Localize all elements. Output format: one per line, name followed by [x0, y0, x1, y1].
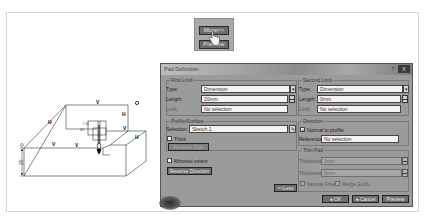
- first-limit-label: First Limit: [170, 77, 194, 83]
- svg-text:45: 45: [80, 128, 84, 132]
- svg-text:V: V: [96, 99, 100, 105]
- pad-definition-dialog: Pad Definition ? X First Limit Type: Dim…: [160, 63, 413, 207]
- neutral-fiber-label: Neutral Fiber: [307, 181, 336, 187]
- second-type-select[interactable]: Dimension: [317, 85, 403, 93]
- first-limit-input[interactable]: No selection: [201, 105, 288, 113]
- thin-pad-label: Thin Pad: [302, 147, 324, 153]
- reverse-side-button[interactable]: Reverse Side: [168, 143, 209, 151]
- second-limit-input[interactable]: No selection: [317, 105, 401, 113]
- thickness1-input[interactable]: 1mm: [321, 157, 402, 165]
- svg-text:H: H: [135, 134, 139, 140]
- second-type-dropdown-arrow[interactable]: ▾: [403, 85, 409, 93]
- ok-button[interactable]: ● OK: [322, 195, 349, 203]
- hand-pointer-icon: [209, 30, 220, 46]
- svg-text:L30: L30: [83, 122, 89, 126]
- profile-surface-label: Profile/Surface: [170, 118, 205, 124]
- merge-ends-label: Merge Ends: [342, 181, 369, 187]
- thickness1-spinner[interactable]: [402, 157, 408, 165]
- second-limit-label: Second Limit: [302, 77, 333, 83]
- dialog-title: Pad Definition: [164, 66, 198, 72]
- thickness2-spinner[interactable]: [402, 169, 408, 177]
- less-button[interactable]: <<Less: [274, 184, 297, 192]
- close-button[interactable]: X: [398, 65, 410, 73]
- svg-text:V: V: [75, 142, 79, 148]
- reverse-direction-button[interactable]: Reverse Direction: [167, 167, 212, 175]
- thick-label: Thick: [174, 136, 186, 142]
- first-length-input[interactable]: 20mm: [201, 95, 288, 103]
- sketch-button[interactable]: ✎: [289, 125, 296, 133]
- first-length-spinner[interactable]: [289, 95, 295, 103]
- thickness2-input[interactable]: 0mm: [321, 169, 402, 177]
- second-length-label: Length:: [299, 96, 316, 102]
- direction-label: Direction: [302, 118, 324, 124]
- first-limit-field-label: Limit:: [166, 106, 178, 112]
- help-button[interactable]: ?: [388, 65, 398, 73]
- reference-label: Reference:: [299, 136, 323, 142]
- mirrored-extent-label: Mirrored extent: [174, 158, 208, 164]
- second-length-spinner[interactable]: [402, 95, 408, 103]
- cancel-label: Cancel: [360, 196, 376, 202]
- svg-text:V: V: [52, 141, 56, 147]
- neutral-fiber-checkbox[interactable]: [300, 181, 305, 186]
- svg-text:V: V: [123, 125, 127, 131]
- more-button-callout: More>> Preview: [194, 18, 234, 51]
- mirrored-extent-checkbox[interactable]: [167, 158, 172, 163]
- second-limit-field-label: Limit:: [299, 106, 311, 112]
- first-type-label: Type:: [166, 86, 178, 92]
- thick-checkbox[interactable]: [167, 136, 172, 141]
- first-type-dropdown-arrow[interactable]: ▾: [290, 85, 296, 93]
- cursor-shadow: [159, 196, 181, 210]
- selection-label: Selection:: [166, 126, 188, 132]
- normal-to-profile-checkbox[interactable]: ✓: [300, 127, 305, 132]
- ok-label: OK: [334, 196, 341, 202]
- part-wireframe-figure: 20 V H V H V H V L30 45: [10, 95, 160, 185]
- cancel-button[interactable]: ● Cancel: [352, 195, 379, 203]
- reference-input[interactable]: No selection: [321, 135, 399, 143]
- normal-to-profile-label: Normal to profile: [307, 127, 344, 133]
- merge-ends-checkbox[interactable]: [335, 181, 340, 186]
- first-length-label: Length:: [166, 96, 183, 102]
- svg-text:H: H: [122, 111, 126, 117]
- dialog-titlebar[interactable]: Pad Definition ? X: [161, 64, 412, 75]
- first-type-select[interactable]: Dimension: [201, 85, 290, 93]
- selection-input[interactable]: Sketch.1: [189, 125, 288, 133]
- svg-text:H: H: [48, 119, 52, 125]
- dimension-label: 20: [18, 159, 24, 165]
- second-type-label: Type:: [299, 86, 311, 92]
- second-length-input[interactable]: 0mm: [317, 95, 401, 103]
- preview-button[interactable]: Preview: [382, 195, 409, 203]
